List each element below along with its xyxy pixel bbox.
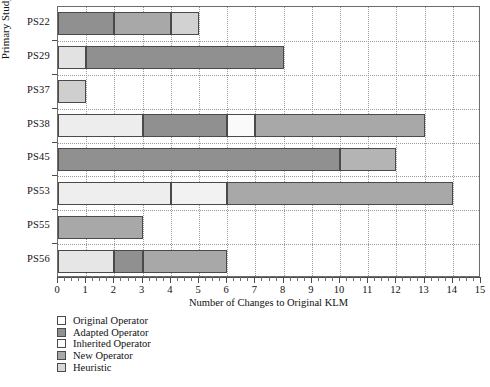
x-tick-minor (120, 277, 121, 281)
x-tick-mark (480, 277, 481, 283)
legend-label: Heuristic (73, 362, 112, 373)
bar-ps37 (58, 80, 479, 103)
y-tick-label-ps45: PS45 (0, 151, 50, 162)
bar-ps29 (58, 46, 479, 69)
legend-item-adapted-operator: Adapted Operator (57, 327, 151, 339)
y-axis-title: Primary Study no. (0, 0, 11, 84)
x-tick-minor (205, 277, 206, 281)
x-tick-minor (374, 277, 375, 281)
x-tick-minor (233, 277, 234, 281)
x-tick-minor (360, 277, 361, 281)
x-tick-minor (191, 277, 192, 281)
x-tick-mark (254, 277, 255, 283)
x-tick-minor (135, 277, 136, 281)
legend-item-heuristic: Heuristic (57, 361, 151, 373)
bar-segment (58, 12, 114, 35)
legend-swatch-icon (57, 339, 66, 348)
x-tick-label-8: 8 (268, 284, 298, 295)
x-tick-minor (466, 277, 467, 281)
x-tick-label-15: 15 (465, 284, 490, 295)
legend-swatch-icon (57, 351, 66, 360)
y-tick-label-ps22: PS22 (0, 16, 50, 27)
x-tick-minor (71, 277, 72, 281)
chart-legend: Original OperatorAdapted OperatorInherit… (57, 315, 151, 373)
x-tick-minor (149, 277, 150, 281)
x-tick-minor (177, 277, 178, 281)
x-tick-mark (57, 277, 58, 283)
x-tick-minor (128, 277, 129, 281)
y-tick-label-ps53: PS53 (0, 185, 50, 196)
bar-segment (58, 80, 86, 103)
x-tick-mark (113, 277, 114, 283)
legend-label: Adapted Operator (73, 327, 149, 338)
x-tick-label-10: 10 (324, 284, 354, 295)
bar-segment (227, 114, 255, 137)
x-tick-minor (332, 277, 333, 281)
x-tick-label-6: 6 (211, 284, 241, 295)
bar-segment (340, 148, 396, 171)
x-tick-minor (92, 277, 93, 281)
bar-segment (86, 46, 283, 69)
x-tick-mark (367, 277, 368, 283)
legend-item-new-operator: New Operator (57, 350, 151, 362)
x-tick-minor (325, 277, 326, 281)
x-tick-minor (219, 277, 220, 281)
bar-segment (58, 182, 171, 205)
x-tick-minor (156, 277, 157, 281)
x-tick-minor (184, 277, 185, 281)
x-tick-mark (283, 277, 284, 283)
x-tick-minor (269, 277, 270, 281)
x-tick-minor (410, 277, 411, 281)
x-tick-minor (353, 277, 354, 281)
x-axis-title: Number of Changes to Original KLM (57, 297, 480, 308)
x-tick-label-12: 12 (380, 284, 410, 295)
plot-area (57, 6, 480, 277)
bar-segment (58, 148, 340, 171)
x-tick-minor (99, 277, 100, 281)
x-tick-minor (64, 277, 65, 281)
bar-segment (58, 114, 143, 137)
x-tick-minor (445, 277, 446, 281)
x-tick-label-14: 14 (437, 284, 467, 295)
x-tick-mark (395, 277, 396, 283)
x-tick-minor (290, 277, 291, 281)
bar-segment (227, 182, 453, 205)
bar-segment (171, 12, 199, 35)
x-tick-minor (381, 277, 382, 281)
x-tick-label-11: 11 (352, 284, 382, 295)
x-tick-mark (226, 277, 227, 283)
bar-segment (114, 250, 142, 273)
x-tick-minor (240, 277, 241, 281)
x-tick-mark (424, 277, 425, 283)
bar-ps45 (58, 148, 479, 171)
bar-ps55 (58, 216, 479, 239)
y-tick-label-ps38: PS38 (0, 118, 50, 129)
x-tick-mark (142, 277, 143, 283)
x-tick-label-4: 4 (155, 284, 185, 295)
legend-swatch-icon (57, 316, 66, 325)
x-tick-minor (276, 277, 277, 281)
x-tick-minor (212, 277, 213, 281)
x-tick-minor (402, 277, 403, 281)
x-tick-minor (261, 277, 262, 281)
x-tick-minor (106, 277, 107, 281)
x-tick-minor (78, 277, 79, 281)
x-tick-label-7: 7 (239, 284, 269, 295)
y-tick-label-ps56: PS56 (0, 253, 50, 264)
x-tick-minor (346, 277, 347, 281)
legend-item-original-operator: Original Operator (57, 315, 151, 327)
bar-segment (58, 250, 114, 273)
x-tick-minor (318, 277, 319, 281)
bars-container (58, 7, 479, 276)
legend-label: Original Operator (73, 315, 148, 326)
bar-ps38 (58, 114, 479, 137)
x-tick-minor (163, 277, 164, 281)
bar-segment (114, 12, 170, 35)
bar-ps56 (58, 250, 479, 273)
legend-item-inherited-operator: Inherited Operator (57, 338, 151, 350)
legend-swatch-icon (57, 363, 66, 372)
bar-segment (255, 114, 424, 137)
x-tick-minor (417, 277, 418, 281)
x-tick-mark (170, 277, 171, 283)
bar-segment (143, 250, 228, 273)
